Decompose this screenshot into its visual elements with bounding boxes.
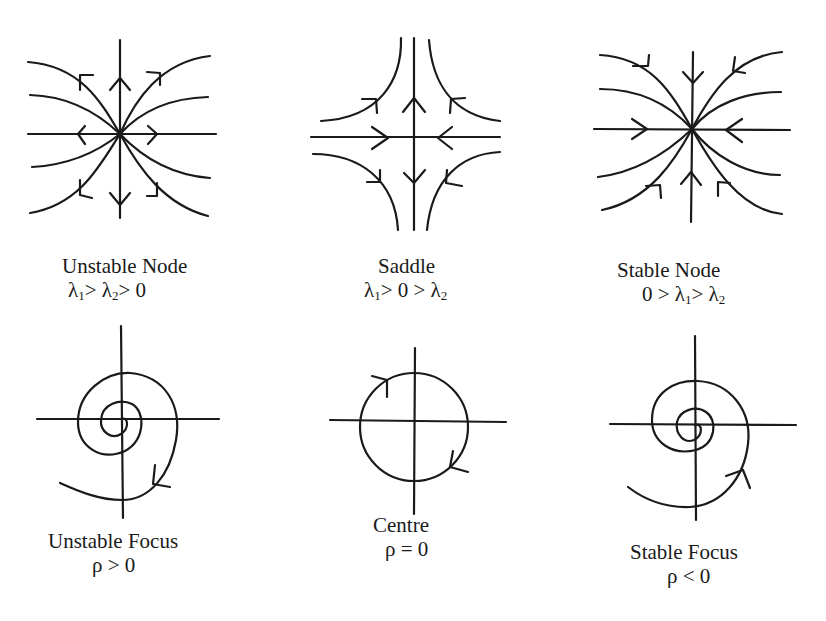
stable-focus-phase-portrait (0, 0, 826, 621)
arrow-icon (726, 470, 750, 488)
stable-focus-condition: ρ < 0 (667, 564, 710, 588)
stable-focus-label: Stable Focus (630, 540, 738, 564)
